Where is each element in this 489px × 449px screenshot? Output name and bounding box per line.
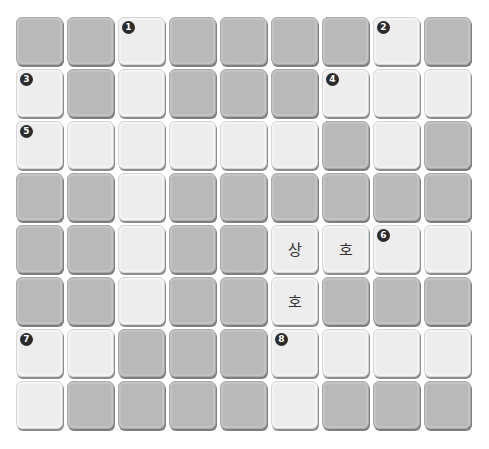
clue-number-badge: 7 [20, 333, 33, 346]
blocked-cell [322, 173, 369, 221]
blocked-cell [424, 17, 471, 65]
answer-cell[interactable]: 호 [322, 225, 369, 273]
blocked-cell [220, 329, 267, 377]
clue-number-badge: 4 [326, 73, 339, 86]
blocked-cell [271, 17, 318, 65]
blocked-cell [373, 381, 420, 429]
blocked-cell [424, 121, 471, 169]
blocked-cell [67, 381, 114, 429]
blocked-cell [424, 173, 471, 221]
blocked-cell [169, 225, 216, 273]
answer-cell[interactable] [424, 329, 471, 377]
blocked-cell [220, 17, 267, 65]
blocked-cell [169, 329, 216, 377]
clue-number-badge: 5 [20, 125, 33, 138]
blocked-cell [118, 381, 165, 429]
blocked-cell [67, 277, 114, 325]
answer-cell[interactable] [118, 225, 165, 273]
answer-cell[interactable] [271, 381, 318, 429]
clue-number-badge: 3 [20, 73, 33, 86]
answer-cell[interactable]: 3 [16, 69, 63, 117]
blocked-cell [322, 121, 369, 169]
answer-cell[interactable] [322, 329, 369, 377]
answer-cell[interactable]: 6 [373, 225, 420, 273]
blocked-cell [220, 277, 267, 325]
blocked-cell [424, 277, 471, 325]
answer-cell[interactable] [118, 173, 165, 221]
blocked-cell [118, 329, 165, 377]
answer-cell[interactable]: 상 [271, 225, 318, 273]
blocked-cell [322, 17, 369, 65]
answer-cell[interactable]: 1 [118, 17, 165, 65]
blocked-cell [16, 173, 63, 221]
blocked-cell [373, 277, 420, 325]
blocked-cell [220, 381, 267, 429]
answer-cell[interactable]: 4 [322, 69, 369, 117]
blocked-cell [271, 69, 318, 117]
blocked-cell [220, 69, 267, 117]
answer-cell[interactable]: 2 [373, 17, 420, 65]
blocked-cell [16, 17, 63, 65]
answer-cell[interactable] [373, 329, 420, 377]
blocked-cell [322, 277, 369, 325]
blocked-cell [67, 173, 114, 221]
blocked-cell [169, 381, 216, 429]
blocked-cell [67, 225, 114, 273]
clue-number-badge: 8 [275, 333, 288, 346]
filled-letter: 호 [272, 290, 317, 311]
blocked-cell [67, 17, 114, 65]
blocked-cell [67, 69, 114, 117]
answer-cell[interactable] [424, 225, 471, 273]
blocked-cell [322, 381, 369, 429]
blocked-cell [169, 17, 216, 65]
clue-number-badge: 2 [377, 21, 390, 34]
answer-cell[interactable]: 7 [16, 329, 63, 377]
filled-letter: 호 [323, 238, 368, 259]
blocked-cell [424, 381, 471, 429]
answer-cell[interactable]: 5 [16, 121, 63, 169]
answer-cell[interactable] [169, 121, 216, 169]
answer-cell[interactable]: 호 [271, 277, 318, 325]
blocked-cell [220, 173, 267, 221]
answer-cell[interactable] [118, 69, 165, 117]
answer-cell[interactable] [118, 277, 165, 325]
blocked-cell [271, 173, 318, 221]
clue-number-badge: 1 [122, 21, 135, 34]
answer-cell[interactable] [424, 69, 471, 117]
answer-cell[interactable] [373, 69, 420, 117]
blocked-cell [220, 225, 267, 273]
answer-cell[interactable] [220, 121, 267, 169]
blocked-cell [373, 173, 420, 221]
answer-cell[interactable]: 8 [271, 329, 318, 377]
answer-cell[interactable] [67, 121, 114, 169]
filled-letter: 상 [272, 238, 317, 259]
blocked-cell [16, 277, 63, 325]
answer-cell[interactable] [67, 329, 114, 377]
answer-cell[interactable] [16, 381, 63, 429]
blocked-cell [169, 173, 216, 221]
clue-number-badge: 6 [377, 229, 390, 242]
answer-cell[interactable] [118, 121, 165, 169]
blocked-cell [169, 69, 216, 117]
crossword-board: 12345상호6호78 [15, 16, 474, 432]
answer-cell[interactable] [271, 121, 318, 169]
blocked-cell [169, 277, 216, 325]
answer-cell[interactable] [373, 121, 420, 169]
blocked-cell [16, 225, 63, 273]
